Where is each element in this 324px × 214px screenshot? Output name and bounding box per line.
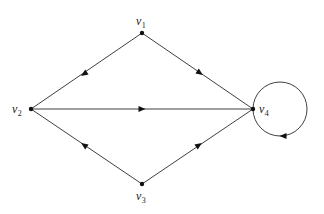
node-v3	[140, 182, 144, 186]
graph-svg: v1v2v3v4	[0, 0, 324, 214]
node-v1	[140, 31, 144, 35]
label-v2: v2	[12, 102, 22, 118]
node-v2	[29, 107, 33, 111]
arrow-icon-v3-v2	[81, 143, 88, 149]
arrow-icon-v1-v4	[195, 69, 202, 75]
edge-v1-v2	[31, 33, 142, 109]
label-v4: v4	[259, 102, 269, 118]
node-v4	[251, 107, 255, 111]
label-v3: v3	[136, 189, 146, 205]
arrow-icon-v2-v4	[139, 106, 146, 112]
arrow-icon-loop-v4	[280, 133, 287, 139]
directed-graph-diagram: v1v2v3v4	[0, 0, 324, 214]
arrow-icon-v3-v4	[194, 143, 201, 149]
label-v1: v1	[136, 14, 146, 30]
